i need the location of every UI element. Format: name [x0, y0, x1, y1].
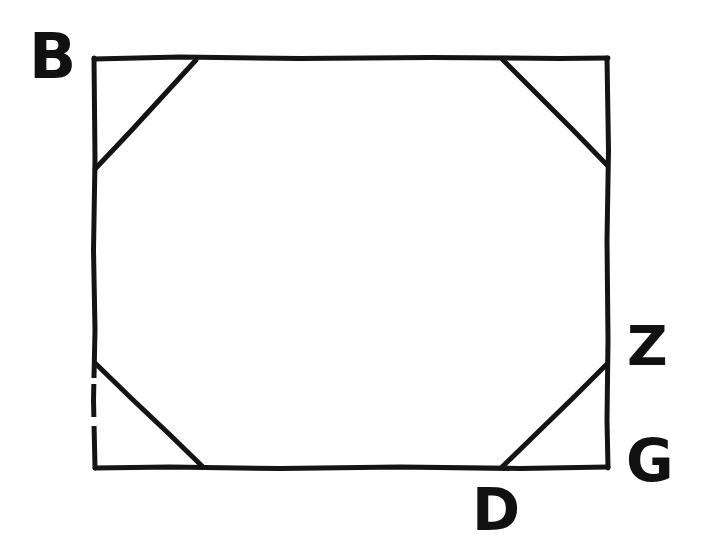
- rect-top-edge: [94, 57, 608, 59]
- figure-canvas: B Z G D: [0, 0, 702, 559]
- chamfer-lines: [95, 60, 607, 467]
- vertex-label-g: G: [626, 432, 674, 490]
- chamfer-bottom-left-line: [95, 363, 203, 467]
- rectangle-outline: [94, 57, 609, 469]
- vertex-label-d: D: [472, 481, 520, 539]
- chamfer-top-left-line: [95, 60, 196, 169]
- vertex-label-z: Z: [627, 318, 668, 374]
- gap-left-edge-lower: [89, 417, 100, 426]
- rect-bottom-edge: [95, 467, 608, 469]
- gap-left-edge-upper: [89, 378, 100, 384]
- chamfer-bottom-right-line: [502, 364, 607, 467]
- rect-right-edge: [607, 58, 609, 468]
- hand-drawn-shape-svg: [0, 0, 702, 559]
- chamfer-top-right-line: [503, 60, 607, 165]
- rect-left-edge: [94, 58, 96, 468]
- vertex-label-b: B: [29, 26, 76, 88]
